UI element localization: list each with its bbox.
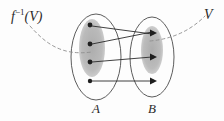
point-a3 [88,60,93,65]
point-b3 [150,79,154,83]
point-b2 [150,55,154,59]
point-a4 [88,79,92,83]
target-set-label: V [204,8,213,22]
set-b-label: B [148,102,156,115]
point-a2 [88,42,93,47]
point-b1 [150,31,154,35]
figure-canvas: f−1(V) V A B [0,0,224,121]
preimage-label: f−1(V) [11,8,42,24]
point-a1 [88,23,93,28]
set-a-label: A [92,102,100,115]
preimage-label-arg: (V) [24,9,42,24]
preimage-shaded-region [79,19,105,77]
